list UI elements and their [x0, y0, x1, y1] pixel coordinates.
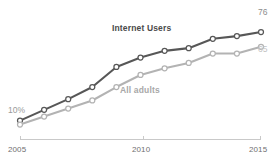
data-point — [186, 60, 191, 65]
data-point — [234, 51, 239, 56]
data-point — [259, 44, 264, 49]
data-point — [66, 97, 71, 102]
data-point — [162, 66, 167, 71]
data-point — [162, 48, 167, 53]
data-point — [114, 85, 119, 90]
data-point — [259, 30, 264, 35]
data-point — [18, 122, 23, 127]
data-point — [114, 64, 119, 69]
data-point — [90, 98, 95, 103]
chart-plot-area — [0, 0, 276, 163]
data-point — [42, 107, 47, 112]
data-point — [138, 55, 143, 60]
data-point — [210, 36, 215, 41]
x-axis — [20, 136, 261, 140]
data-point — [138, 72, 143, 77]
data-point — [234, 34, 239, 39]
data-point — [90, 85, 95, 90]
line-chart: Internet Users All adults 10% 76 65 2005… — [0, 0, 276, 163]
data-point — [210, 51, 215, 56]
data-point — [66, 106, 71, 111]
series-layer — [18, 30, 264, 128]
data-point — [42, 114, 47, 119]
data-point — [186, 46, 191, 51]
